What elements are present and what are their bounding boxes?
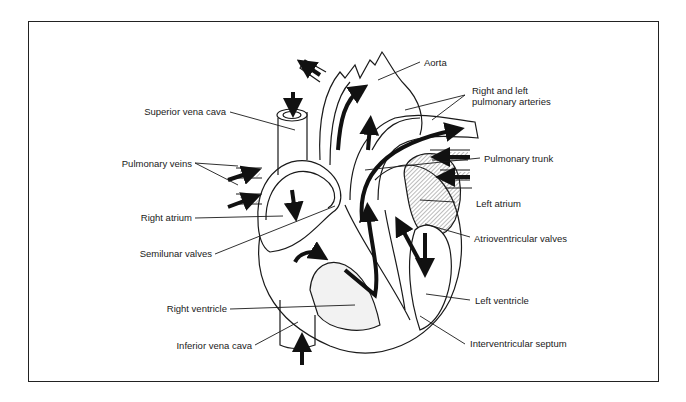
label-inferior-vena-cava: Inferior vena cava [140, 340, 252, 351]
label-semilunar-valves: Semilunar valves [100, 248, 212, 259]
label-pulmonary-arteries-1: Right and left [472, 85, 528, 96]
label-right-atrium: Right atrium [100, 212, 192, 223]
label-interventricular-septum: Interventricular septum [470, 338, 567, 349]
label-superior-vena-cava: Superior vena cava [120, 106, 226, 117]
label-pulmonary-arteries-2: pulmonary arteries [472, 96, 551, 107]
label-left-atrium: Left atrium [476, 198, 521, 209]
label-atrioventricular-valves: Atrioventricular valves [474, 233, 567, 244]
label-right-ventricle: Right ventricle [130, 303, 227, 314]
left-ventricle [410, 225, 452, 330]
label-aorta: Aorta [424, 57, 447, 68]
label-pulmonary-veins: Pulmonary veins [100, 158, 192, 169]
label-pulmonary-trunk: Pulmonary trunk [484, 153, 553, 164]
heart-diagram [0, 0, 686, 402]
label-left-ventricle: Left ventricle [475, 295, 529, 306]
